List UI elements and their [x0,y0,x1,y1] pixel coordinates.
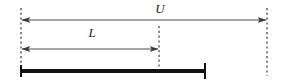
label-upper-bound: U [155,1,166,16]
interval-dimension-diagram: U L [0,0,284,83]
guide-lines [21,8,267,76]
diagram-canvas: U L [0,0,284,83]
measured-bar-group [21,63,205,79]
label-lower-bound: L [87,25,95,40]
